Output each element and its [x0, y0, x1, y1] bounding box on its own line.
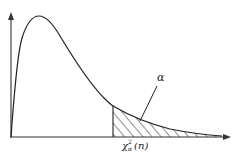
critical-value-label: χ2α(n) — [122, 140, 148, 152]
shaded-tail-region — [113, 105, 222, 137]
critical-value-arg: (n) — [134, 140, 148, 151]
x-axis-arrow-icon — [223, 134, 231, 140]
alpha-label: α — [157, 71, 164, 84]
alpha-leader-line — [140, 86, 157, 121]
y-axis — [8, 12, 14, 138]
critical-value-scripts: 2α — [128, 142, 134, 152]
critical-value-subscript: α — [128, 145, 132, 152]
chi-square-density-figure — [0, 0, 233, 156]
critical-value-superscript: 2 — [128, 138, 132, 145]
y-axis-arrow-icon — [8, 12, 14, 20]
